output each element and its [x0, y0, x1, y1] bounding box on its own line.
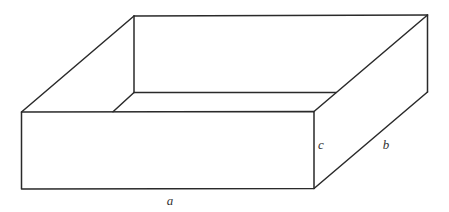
front-face [22, 112, 315, 190]
label-c: c [318, 137, 324, 152]
label-b: b [383, 137, 390, 152]
bottom-right-receding-edge-b [314, 92, 428, 189]
top-back-edge [134, 15, 428, 16]
open-box-diagram: a b c [0, 0, 449, 212]
top-right-receding-edge [314, 15, 428, 112]
top-left-receding-edge [22, 16, 135, 112]
label-a: a [167, 193, 174, 208]
box-drawing: a b c [0, 0, 449, 212]
inner-left-bottom-edge [113, 93, 134, 112]
